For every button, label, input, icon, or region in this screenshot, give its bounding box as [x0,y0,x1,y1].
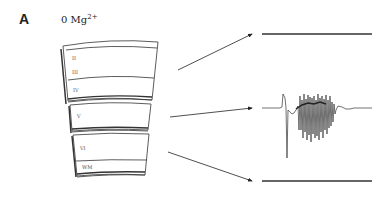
arrow-top [178,34,252,70]
slab-middle [69,103,151,133]
layer-label-V: V [76,113,81,119]
layer-label-II: II [72,55,76,61]
layer-label-III: III [72,69,78,75]
slab-bottom [72,133,149,177]
arrow-bottom [168,152,252,181]
arrow-middle [170,108,252,117]
layer-label-WM: WM [82,164,92,170]
figure-drawing: II III IV V VI WM [0,0,392,199]
layer-label-IV: IV [73,87,79,93]
layer-label-VI: VI [79,145,86,151]
